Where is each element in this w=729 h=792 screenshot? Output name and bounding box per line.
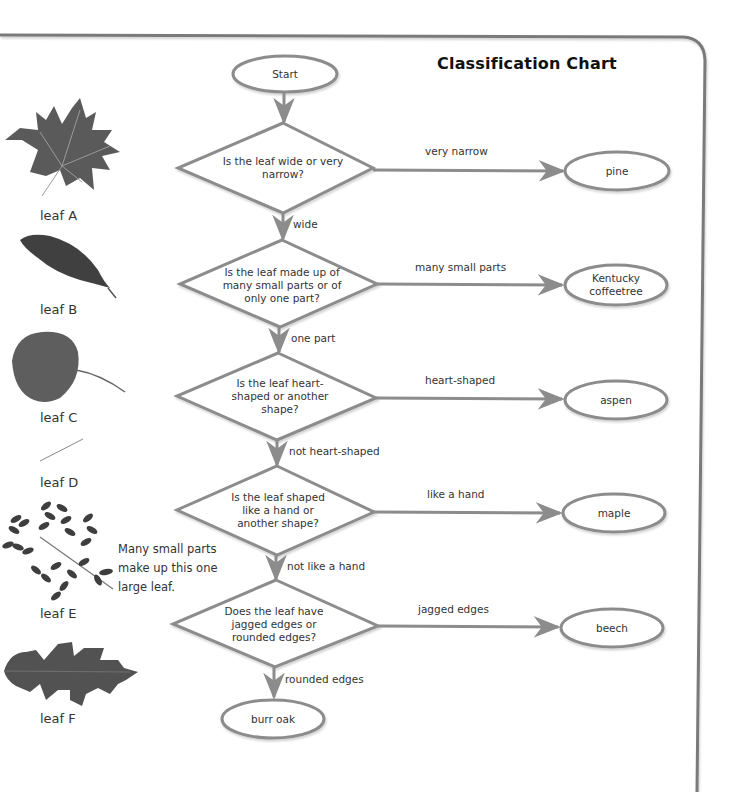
note-line-2: make up this one: [118, 559, 218, 578]
question-4-text: Is the leaf shaped like a hand or anothe…: [224, 488, 332, 532]
result-pine: pine: [566, 152, 668, 190]
question-5-text: Does the leaf have jagged edges or round…: [218, 602, 330, 646]
edge-label-not-heart-shaped: not heart-shaped: [289, 445, 380, 457]
edge-label-wide: wide: [293, 218, 318, 230]
start-label: Start: [233, 56, 337, 92]
compound-leaf-icon: [1, 500, 113, 602]
result-aspen: aspen: [565, 381, 667, 419]
edge-label-like-a-hand: like a hand: [427, 488, 485, 500]
beech-leaf-icon: [20, 235, 116, 298]
edge-label-jagged-edges: jagged edges: [418, 603, 489, 615]
leaf-label-d: leaf D: [40, 475, 78, 490]
edge-label-very-narrow: very narrow: [425, 145, 488, 157]
leaf-label-a: leaf A: [40, 208, 77, 223]
maple-leaf-icon: [5, 98, 120, 196]
leaf-label-f: leaf F: [40, 711, 76, 726]
edge-label-many-small-parts: many small parts: [415, 261, 506, 273]
result-maple: maple: [563, 494, 665, 532]
result-burr-oak: burr oak: [222, 700, 324, 738]
edge-label-one-part: one part: [291, 332, 335, 344]
note-line-1: Many small parts: [118, 540, 218, 559]
question-2-text: Is the leaf made up of many small parts …: [222, 256, 342, 314]
note-line-3: large leaf.: [118, 578, 218, 597]
classification-chart: Classification Chart Start Is the leaf w…: [0, 0, 729, 792]
leaf-label-e: leaf E: [40, 606, 77, 621]
question-3-text: Is the leaf heart-shaped or another shap…: [225, 374, 335, 418]
result-kentucky-coffeetree: Kentucky coffeetree: [570, 266, 662, 304]
leaf-label-b: leaf B: [40, 302, 77, 317]
question-1-text: Is the leaf wide or very narrow?: [220, 148, 346, 188]
oak-leaf-icon: [4, 642, 138, 706]
chart-title: Classification Chart: [437, 54, 617, 73]
pine-needle-icon: [40, 439, 83, 461]
compound-leaf-note: Many small parts make up this one large …: [118, 540, 218, 597]
leaf-label-c: leaf C: [40, 410, 77, 425]
aspen-leaf-icon: [12, 332, 125, 402]
edge-label-heart-shaped: heart-shaped: [425, 374, 495, 386]
result-beech: beech: [561, 609, 663, 647]
edge-label-rounded-edges: rounded edges: [285, 673, 364, 685]
edge-label-not-like-a-hand: not like a hand: [287, 560, 365, 572]
